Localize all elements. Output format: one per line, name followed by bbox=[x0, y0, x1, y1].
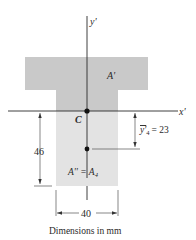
ybar-arrow-bottom bbox=[133, 142, 136, 147]
caption: Dimensions in mm bbox=[49, 226, 122, 236]
ybar-arrow-top bbox=[133, 113, 136, 118]
flange-area bbox=[25, 57, 148, 90]
width-arrow-left bbox=[57, 211, 62, 214]
t-section-diagram: y' x' A' C A'' = A4 y'4= 23 46 40 Dimens… bbox=[0, 0, 196, 240]
width-dim-label: 40 bbox=[81, 208, 91, 219]
centroid-label: C bbox=[75, 114, 82, 125]
width-arrow-right bbox=[112, 211, 117, 214]
height-arrow-bottom bbox=[38, 179, 41, 184]
ybar-label: y'4= 23 bbox=[139, 125, 169, 136]
height-dim-label: 46 bbox=[34, 146, 44, 157]
centroid-dot bbox=[84, 108, 89, 113]
height-arrow-top bbox=[38, 113, 41, 118]
x-axis-label: x' bbox=[178, 106, 186, 117]
area4-centroid-dot bbox=[85, 147, 90, 152]
lower-area-label: A'' = A4 bbox=[67, 167, 99, 178]
y-axis-label: y' bbox=[89, 16, 97, 27]
upper-area-label: A' bbox=[106, 70, 116, 81]
